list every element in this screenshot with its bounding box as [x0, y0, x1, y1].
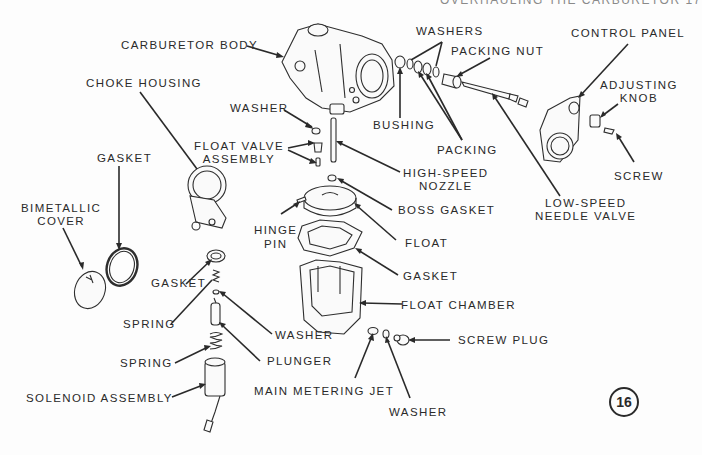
label-adjusting-knob: ADJUSTING KNOB — [600, 79, 678, 105]
label-float-chamber: FLOAT CHAMBER — [401, 299, 516, 312]
label-screw: SCREW — [614, 170, 664, 183]
figure-number-badge: 16 — [609, 387, 639, 417]
solenoid-washer-part — [213, 290, 219, 294]
label-spring-upper: SPRING — [123, 318, 176, 331]
solenoid-assembly-part — [204, 358, 225, 432]
label-bimetallic-cover: BIMETALLIC COVER — [21, 202, 101, 228]
label-plunger: PLUNGER — [267, 355, 332, 368]
label-bushing: BUSHING — [373, 119, 435, 132]
label-main-metering-jet: MAIN METERING JET — [254, 385, 394, 398]
label-solenoid-gasket: GASKET — [151, 277, 206, 290]
plunger-part — [211, 298, 220, 325]
screw-part — [604, 128, 614, 134]
float-chamber-part — [300, 260, 362, 334]
choke-gasket-part — [102, 244, 142, 289]
high-speed-nozzle-part — [331, 118, 336, 162]
label-float: FLOAT — [405, 237, 448, 250]
label-float-valve-assembly: FLOAT VALVE ASSEMBLY — [194, 140, 284, 166]
label-choke-gasket: GASKET — [97, 152, 152, 165]
carburetor-body-part — [282, 24, 394, 114]
label-carburetor-body: CARBURETOR BODY — [121, 39, 258, 52]
label-choke-housing: CHOKE HOUSING — [86, 77, 202, 90]
screw-plug-part — [394, 335, 409, 345]
choke-housing-part — [188, 166, 226, 230]
label-control-panel: CONTROL PANEL — [571, 27, 685, 40]
washer-part — [312, 128, 320, 134]
label-high-speed-nozzle: HIGH-SPEED NOZZLE — [403, 167, 489, 193]
float-gasket-part — [298, 220, 362, 256]
control-panel-part — [540, 96, 580, 162]
label-low-speed-needle-valve: LOW-SPEED NEEDLE VALVE — [535, 197, 636, 223]
label-packing: PACKING — [437, 144, 498, 157]
label-spring-lower: SPRING — [120, 357, 173, 370]
float-part — [304, 186, 356, 216]
label-washers: WASHERS — [416, 25, 484, 38]
label-solenoid-washer: WASHER — [275, 329, 333, 342]
bimetallic-cover-part — [69, 267, 110, 313]
label-screw-plug: SCREW PLUG — [458, 334, 549, 347]
low-speed-needle-valve-part — [462, 82, 528, 107]
upper-spring-part — [213, 270, 219, 282]
exploded-carburetor-diagram: OVERHAULING THE CARBURETOR 17 — [0, 0, 702, 455]
boss-gasket-part — [328, 175, 336, 181]
label-solenoid-assembly: SOLENOID ASSEMBLY — [26, 392, 173, 405]
label-boss-gasket: BOSS GASKET — [398, 204, 495, 217]
label-packing-nut: PACKING NUT — [451, 45, 544, 58]
label-washer: WASHER — [230, 102, 288, 115]
adjusting-knob-part — [590, 115, 600, 127]
lower-spring-part — [210, 333, 222, 350]
label-hinge-pin: HINGE PIN — [254, 224, 297, 251]
label-float-gasket: GASKET — [403, 270, 458, 283]
label-jet-washer: WASHER — [389, 406, 447, 419]
